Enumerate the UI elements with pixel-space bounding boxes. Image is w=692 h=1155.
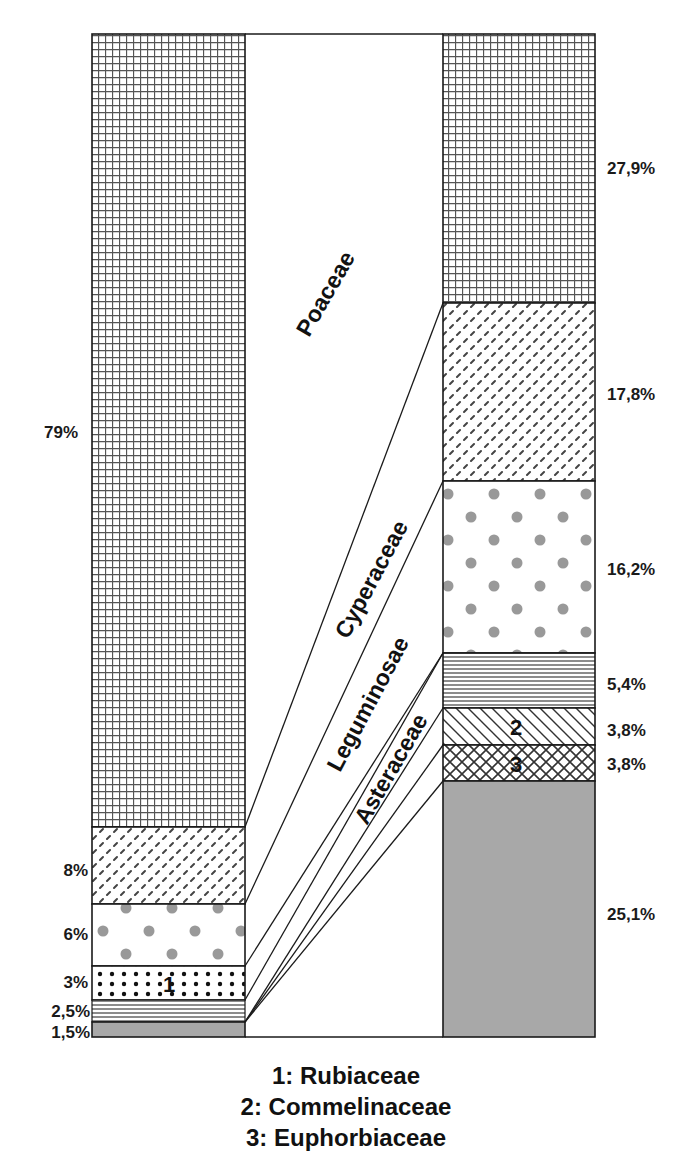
connector-lines [245, 303, 443, 1022]
key-commelinaceae: 2 [510, 715, 522, 740]
key-euphorbiaceae: 3 [510, 752, 522, 777]
pct-right-euphorbiaceae: 3,8% [607, 755, 646, 774]
pct-right-other: 25,1% [607, 905, 655, 924]
right-segment-leguminosae [443, 481, 595, 653]
left-percent-labels: 79% 8% 6% 3% 2,5% 1,5% [44, 423, 90, 1042]
legend: 1: Rubiaceae 2: Commelinaceae 3: Euphorb… [0, 1060, 692, 1153]
pct-right-leguminosae: 16,2% [607, 560, 655, 579]
legend-item-commelinaceae: 2: Commelinaceae [0, 1091, 692, 1122]
pct-left-cyperaceae: 8% [63, 861, 88, 880]
pct-left-rubiaceae: 3% [63, 973, 88, 992]
pct-left-leguminosae: 6% [63, 925, 88, 944]
right-percent-labels: 27,9% 17,8% 16,2% 5,4% 3,8% 3,8% 25,1% [607, 159, 655, 924]
legend-item-euphorbiaceae: 3: Euphorbiaceae [0, 1122, 692, 1153]
right-segment-poaceae [443, 34, 595, 303]
left-segment-asteraceae [92, 1000, 245, 1022]
pct-right-asteraceae: 5,4% [607, 675, 646, 694]
left-segment-other [92, 1022, 245, 1037]
label-cyperaceae: Cyperaceae [329, 516, 413, 642]
pct-left-poaceae: 79% [44, 423, 78, 442]
pct-left-asteraceae: 2,5% [51, 1002, 90, 1021]
legend-item-rubiaceae: 1: Rubiaceae [0, 1060, 692, 1091]
stacked-bar-chart: Poaceae Cyperaceae Leguminosae Asteracea… [0, 0, 692, 1155]
label-poaceae: Poaceae [291, 247, 360, 341]
right-segment-cyperaceae [443, 303, 595, 481]
key-rubiaceae: 1 [163, 972, 175, 997]
right-segment-asteraceae [443, 653, 595, 708]
left-segment-leguminosae [92, 904, 245, 966]
right-segment-other [443, 781, 595, 1037]
left-segment-cyperaceae [92, 827, 245, 904]
pct-left-other: 1,5% [51, 1023, 90, 1042]
pct-right-cyperaceae: 17,8% [607, 385, 655, 404]
pct-right-poaceae: 27,9% [607, 159, 655, 178]
right-bar [443, 34, 595, 1037]
left-bar [92, 34, 245, 1037]
pct-right-commelinaceae: 3,8% [607, 721, 646, 740]
left-segment-poaceae [92, 34, 245, 827]
